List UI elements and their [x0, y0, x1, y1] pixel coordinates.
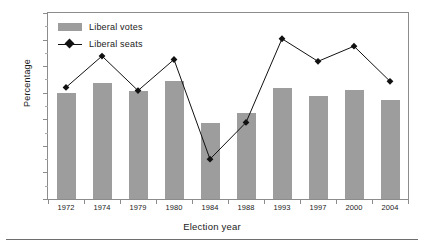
x-tick-mark [300, 200, 301, 204]
x-tick-label-1993: 1993 [273, 203, 290, 212]
bar-1993 [273, 88, 292, 199]
bar-2000 [345, 90, 364, 199]
x-tick-label-1979: 1979 [129, 203, 146, 212]
bar-1997 [309, 96, 328, 199]
y-tick-mark [43, 93, 48, 94]
y-tick-mark [43, 172, 48, 173]
y-tick-mark [45, 79, 48, 80]
x-tick-label-1997: 1997 [309, 203, 326, 212]
bar-1974 [93, 83, 112, 199]
x-tick-label-1974: 1974 [93, 203, 110, 212]
bar-swatch-icon [58, 23, 82, 31]
x-tick-label-1980: 1980 [165, 203, 182, 212]
x-tick-mark [372, 200, 373, 204]
y-tick-mark [45, 159, 48, 160]
x-tick-mark [192, 200, 193, 204]
line-marker-swatch-icon [58, 40, 82, 48]
bar-1979 [129, 91, 148, 199]
x-tick-label-2004: 2004 [381, 203, 398, 212]
x-axis-title: Election year [0, 221, 424, 232]
y-tick-mark [45, 26, 48, 27]
y-axis-title: Percentage [22, 23, 32, 143]
x-tick-mark [84, 200, 85, 204]
chart-figure: Percentage 010203040506070 1972197419791… [0, 0, 424, 246]
y-tick-mark [45, 106, 48, 107]
bar-1988 [237, 113, 256, 199]
x-tick-mark [336, 200, 337, 204]
bar-1972 [57, 93, 76, 199]
y-tick-mark [43, 119, 48, 120]
legend-label-liberal-seats: Liberal seats [89, 39, 143, 49]
chart-legend: Liberal votes Liberal seats [58, 20, 143, 54]
x-tick-mark [120, 200, 121, 204]
y-tick-mark [45, 133, 48, 134]
x-tick-mark [48, 200, 49, 204]
bar-1984 [201, 123, 220, 199]
footer-rule [6, 239, 418, 240]
x-tick-mark [264, 200, 265, 204]
y-tick-mark [43, 66, 48, 67]
y-tick-mark [43, 146, 48, 147]
x-tick-mark [228, 200, 229, 204]
y-tick-mark [45, 53, 48, 54]
legend-item-liberal-votes: Liberal votes [58, 20, 143, 34]
bar-1980 [165, 81, 184, 199]
x-tick-label-1972: 1972 [57, 203, 74, 212]
legend-label-liberal-votes: Liberal votes [89, 22, 143, 32]
y-tick-mark [43, 13, 48, 14]
x-tick-label-1984: 1984 [201, 203, 218, 212]
y-tick-mark [43, 40, 48, 41]
legend-item-liberal-seats: Liberal seats [58, 37, 143, 51]
x-tick-mark [408, 200, 409, 204]
x-tick-label-2000: 2000 [345, 203, 362, 212]
y-tick-mark [45, 186, 48, 187]
x-tick-label-1988: 1988 [237, 203, 254, 212]
x-tick-mark [156, 200, 157, 204]
bar-2004 [381, 100, 400, 199]
